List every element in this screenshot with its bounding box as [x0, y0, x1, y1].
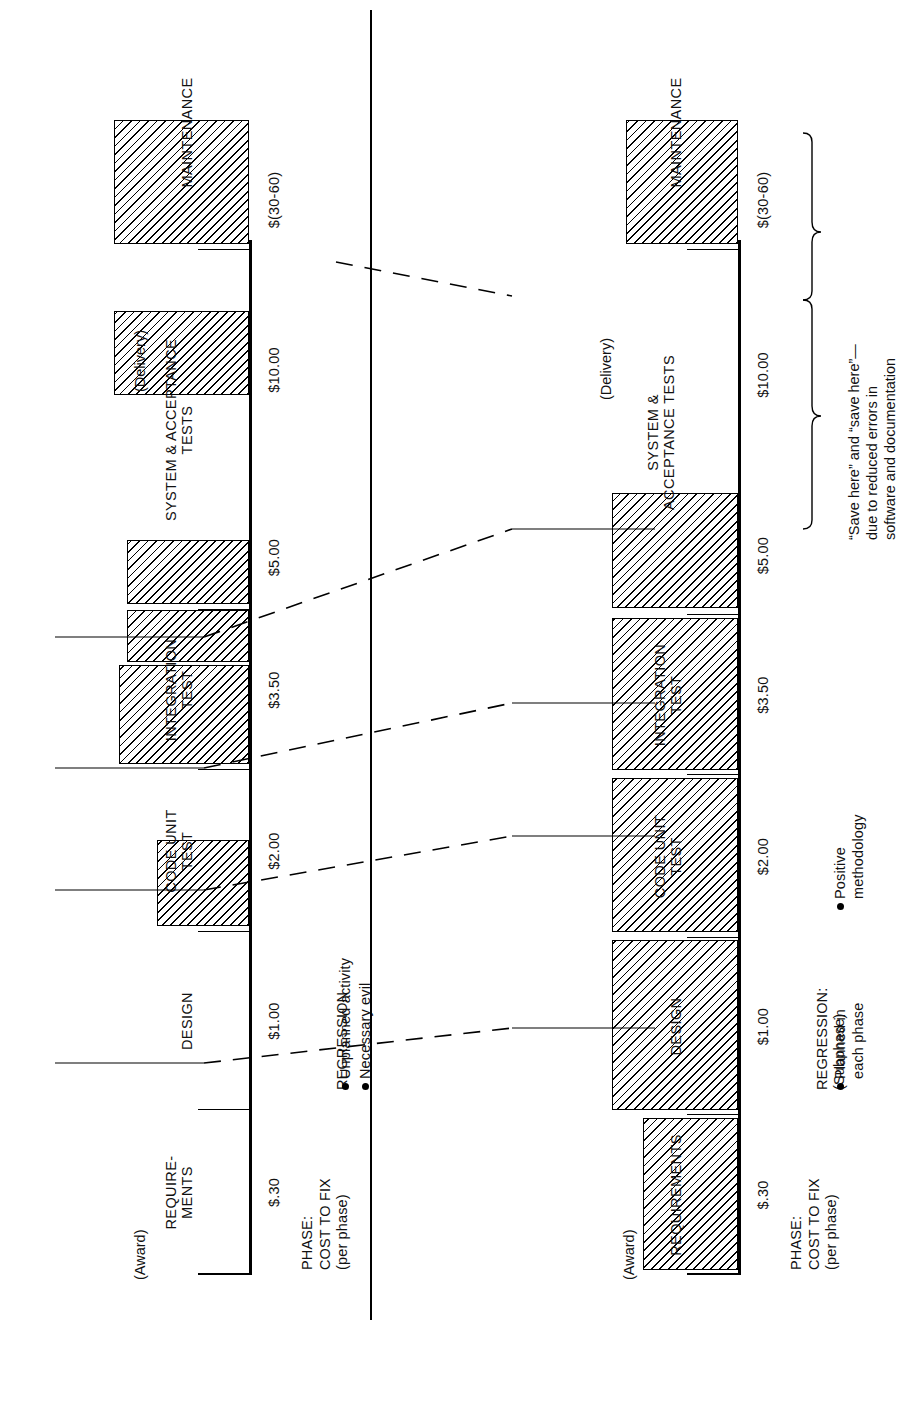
right-tick-sep-1 — [687, 1273, 741, 1275]
left-value-requirements: $.30 — [266, 1110, 282, 1275]
right-phase-label-system-acceptance: SYSTEM & ACCEPTANCE TESTS — [645, 250, 677, 615]
left-legend-item-2-label: Necessary evil — [357, 983, 375, 1079]
right-phase-label-code-unit-test: CODE UNIT TEST — [652, 775, 684, 938]
left-phase-label-system-acceptance: SYSTEM & ACCEPTANCE TESTS — [163, 250, 195, 610]
right-bar-requirements — [643, 1118, 738, 1270]
left-tick-sep-1 — [198, 1273, 252, 1275]
right-legend-item-1: Planned in each phase — [814, 1003, 885, 1090]
bullet-icon — [837, 903, 844, 910]
right-value-design: $1.00 — [755, 938, 771, 1115]
left-value-system-5: $5.00 — [266, 505, 282, 610]
right-phase-label-design: DESIGN — [668, 938, 684, 1115]
right-delivery-marker: (Delivery) — [598, 338, 614, 400]
bullet-icon — [362, 1083, 369, 1090]
right-value-system-10: $10.00 — [755, 320, 771, 430]
panel-divider — [370, 10, 372, 1320]
left-tick-sep-4 — [198, 769, 252, 770]
left-delivery-marker: (Delivery) — [132, 330, 148, 392]
left-caption: PHASE: COST TO FIX (per phase) — [299, 1178, 352, 1270]
savings-annotation: “Save here” and “save here”— due to redu… — [845, 120, 900, 540]
left-tick-sep-2 — [198, 1109, 252, 1110]
left-phase-label-code-unit-test: CODE UNIT TEST — [163, 770, 195, 932]
left-value-code-unit-test: $2.00 — [266, 770, 282, 932]
right-value-integration-test: $3.50 — [755, 615, 771, 775]
left-value-integration-test: $3.50 — [266, 610, 282, 770]
left-value-design: $1.00 — [266, 932, 282, 1110]
left-value-maintenance: $(30-60) — [266, 135, 282, 265]
right-value-maintenance: $(30-60) — [755, 135, 771, 265]
right-tick-sep-6 — [687, 249, 741, 250]
left-tick-sep-6 — [198, 249, 252, 250]
right-phase-label-integration-test: INTEGRATION TEST — [652, 615, 684, 775]
left-phase-label-requirements: REQUIRE- MENTS — [163, 1110, 195, 1275]
right-caption: PHASE: COST TO FIX (per phase) — [788, 1178, 841, 1270]
left-axis-baseline — [249, 240, 252, 1275]
right-legend-item-2: Positive methodology — [814, 814, 885, 910]
savings-annotation-text: “Save here” and “save here”— due to redu… — [845, 120, 899, 540]
right-tick-sep-5 — [687, 614, 741, 615]
left-phase-label-integration-test: INTEGRATION TEST — [163, 610, 195, 770]
right-phase-label-maintenance: MAINTENANCE — [668, 15, 684, 250]
left-award-marker: (Award) — [132, 1230, 148, 1281]
right-value-requirements: $.30 — [755, 1115, 771, 1275]
left-chart-panel: REQUIRE- MENTS DESIGN CODE UNIT TEST INT… — [0, 10, 400, 1330]
right-axis-baseline — [738, 240, 741, 1275]
left-legend-item-2: Necessary evil — [339, 983, 392, 1090]
left-phase-label-maintenance: MAINTENANCE — [179, 15, 195, 250]
right-phase-label-requirements: REQUIREMENTS — [668, 1115, 684, 1275]
right-tick-sep-2 — [687, 1114, 741, 1115]
right-value-system-5: $5.00 — [755, 503, 771, 608]
left-phase-label-design: DESIGN — [179, 932, 195, 1110]
right-legend-item-1-label: Planned in each phase — [832, 1003, 867, 1079]
right-chart-panel: REQUIREMENTS DESIGN CODE UNIT TEST INTEG… — [443, 10, 889, 1330]
right-tick-sep-3 — [687, 937, 741, 938]
left-tick-sep-3 — [198, 931, 252, 932]
left-value-system-10: $10.00 — [266, 315, 282, 425]
right-tick-sep-4 — [687, 774, 741, 775]
right-award-marker: (Award) — [621, 1230, 637, 1281]
bullet-icon — [837, 1083, 844, 1090]
right-legend-item-2-label: Positive methodology — [832, 814, 867, 899]
right-value-code-unit-test: $2.00 — [755, 775, 771, 938]
